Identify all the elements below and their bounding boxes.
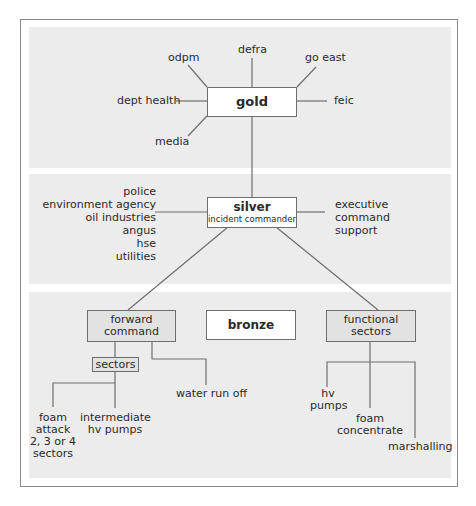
sectors-label: sectors xyxy=(96,359,136,371)
label-feic: feic xyxy=(334,94,354,107)
label-media: media xyxy=(155,135,189,148)
agency-police: police xyxy=(40,185,156,198)
bronze-title: bronze xyxy=(228,319,274,331)
silver-title: silver xyxy=(233,201,270,213)
exec-line3: support xyxy=(335,224,390,237)
agency-oil: oil industries xyxy=(40,211,156,224)
agency-environment: environment agency xyxy=(40,198,156,211)
bronze-box: bronze xyxy=(206,310,296,340)
foam-concentrate-line2: concentrate xyxy=(335,425,405,437)
agency-angus: angus xyxy=(40,224,156,237)
exec-line1: executive xyxy=(335,198,390,211)
gold-box: gold xyxy=(207,87,297,117)
foam-attack-line4: sectors xyxy=(28,448,78,460)
marshalling-label: marshalling xyxy=(388,440,453,453)
gold-title: gold xyxy=(236,96,268,108)
label-odpm: odpm xyxy=(168,51,199,64)
forward-command-box: forward command xyxy=(87,310,176,342)
executive-support-list: executive command support xyxy=(335,198,390,237)
intermediate-hv-pumps-label: intermediate hv pumps xyxy=(80,412,150,436)
functional-sectors-line2: sectors xyxy=(351,326,391,338)
agency-utilities: utilities xyxy=(40,250,156,263)
hv-pumps-label: hv pumps xyxy=(310,388,346,412)
water-run-off-label: water run off xyxy=(176,387,247,400)
intermediate-line2: hv pumps xyxy=(80,424,150,436)
label-go-east: go east xyxy=(305,51,346,64)
functional-sectors-box: functional sectors xyxy=(326,310,416,342)
silver-agencies-list: police environment agency oil industries… xyxy=(40,185,156,263)
foam-attack-label: foam attack 2, 3 or 4 sectors xyxy=(28,412,78,460)
label-defra: defra xyxy=(238,43,267,56)
exec-line2: command xyxy=(335,211,390,224)
silver-box: silver incident commander xyxy=(207,197,297,228)
agency-hse: hse xyxy=(40,237,156,250)
foam-concentrate-label: foam concentrate xyxy=(335,413,405,437)
label-dept-health: dept health xyxy=(117,94,180,107)
hv-pumps-line2: pumps xyxy=(310,400,346,412)
silver-subtitle: incident commander xyxy=(208,213,296,225)
sectors-box: sectors xyxy=(92,357,139,372)
forward-command-line2: command xyxy=(104,326,159,338)
